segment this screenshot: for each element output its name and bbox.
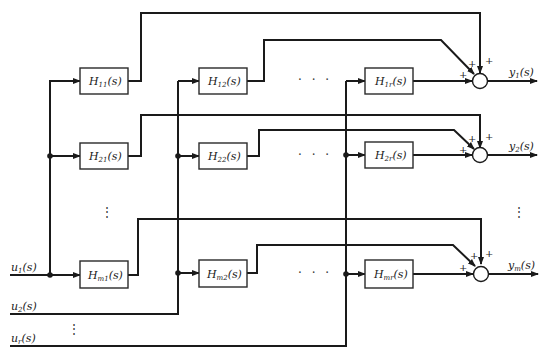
block-hmr: Hmr(s) xyxy=(365,260,413,288)
input-label-u1: u1(s) xyxy=(11,261,37,275)
output-label-ym: ym(s) xyxy=(507,259,535,273)
block-hm1: Hm1(s) xyxy=(80,261,128,288)
svg-text:+: + xyxy=(485,131,493,142)
wire-h11-to-sum1 xyxy=(128,13,480,81)
block-h22: H22(s) xyxy=(199,143,247,169)
block-h2r: H2r(s) xyxy=(365,142,413,168)
input-label-ur: ur(s) xyxy=(11,332,36,346)
svg-text:+: + xyxy=(459,144,467,155)
junction-dot xyxy=(343,271,349,277)
mimo-block-diagram: H11(s) H12(s) H1r(s) H21(s) H22(s) H2r(s… xyxy=(0,0,552,357)
svg-text:+: + xyxy=(468,133,476,144)
svg-text:+: + xyxy=(459,69,467,80)
wire-h22-to-sum2 xyxy=(247,130,474,156)
ellipsis-horizontal: · · · xyxy=(298,266,332,280)
input-label-u2: u2(s) xyxy=(11,300,37,314)
svg-text:+: + xyxy=(459,262,467,273)
ellipsis-vertical: ⋮ xyxy=(68,322,83,336)
svg-text:+: + xyxy=(468,58,476,69)
svg-text:+: + xyxy=(470,250,478,261)
summing-junction-m: + + + xyxy=(459,248,493,282)
summing-junction-2: + + + xyxy=(459,131,493,163)
svg-text:+: + xyxy=(485,248,493,259)
junction-dot xyxy=(343,152,349,158)
block-hm2: Hm2(s) xyxy=(199,260,247,287)
block-h11: H11(s) xyxy=(80,68,128,94)
ellipsis-horizontal: · · · xyxy=(298,73,332,87)
block-h12: H12(s) xyxy=(199,68,247,94)
output-label-y2: y2(s) xyxy=(508,140,534,154)
ellipsis-vertical: ⋮ xyxy=(513,205,528,219)
output-label-y1: y1(s) xyxy=(508,66,534,80)
block-h1r: H1r(s) xyxy=(365,68,413,94)
wire-h12-to-sum1 xyxy=(247,40,474,81)
junction-dot xyxy=(175,270,181,276)
junction-dot xyxy=(175,153,181,159)
junction-dot xyxy=(47,153,53,159)
bus-u1 xyxy=(50,81,80,275)
wire-hm2-to-summ xyxy=(247,245,475,273)
block-h21: H21(s) xyxy=(80,143,128,169)
ellipsis-horizontal: · · · xyxy=(298,148,332,162)
junction-dot xyxy=(47,272,53,278)
ellipsis-vertical: ⋮ xyxy=(101,205,116,219)
summing-junction-1: + + + xyxy=(459,55,493,89)
svg-text:+: + xyxy=(485,55,493,66)
